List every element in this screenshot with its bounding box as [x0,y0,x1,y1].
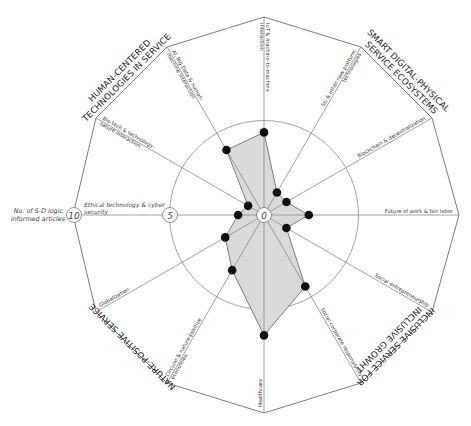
data-point-marker [301,282,310,291]
theme-label-line: NATURE-POSITIVE SERVICE [87,302,177,392]
data-series [221,128,313,340]
theme-label-line: HUMAN-CENTERED [86,37,152,103]
spoke-label-4: Social entrepreneurship [373,272,431,309]
theme-label-line: TECHNOLOGIES IN SERVICE [80,31,173,124]
theme-label-line: SERVICE ECOSYSTEMS [363,39,440,116]
tick-label-0: 0 [261,211,267,221]
spoke-label-line: Bio-tech & technology- [101,115,156,151]
tick-label-10: 10 [68,211,80,221]
tick-label-5: 5 [167,211,173,221]
spoke-label-line: Social entrepreneurship [373,272,431,309]
theme-label-line: INCLUSIVE GROWHT [353,305,423,375]
axis-title: No. of S-D logic informed articles [11,207,66,223]
data-point-marker [221,233,230,242]
data-point-marker [260,331,269,340]
spoke-label-8: Globalization [98,286,130,308]
spoke-label-line: Healthcare [257,379,263,407]
axis-title-line-1: No. of S-D logic [14,207,64,215]
spoke-label-0: IoT & machine-to-machineinteraction [259,23,271,92]
data-point-marker [234,211,243,220]
theme-label-2: NATURE-POSITIVE SERVICE [87,302,177,392]
spoke-label-line: Circular & nature-positive [164,317,203,378]
spoke-label-3: Future of work & fair labor [385,208,454,214]
spoke-label-1: 5G & other new platformtechnologies [320,48,364,111]
radar-chart: IoT & machine-to-machineinteraction5G & … [0,0,471,426]
axis-title-line-2: informed articles [11,215,66,223]
theme-label-0: SMART DIGITAL-PHYSICALSERVICE ECOSYSTEMS [358,27,452,121]
spoke-label-line: Future of work & fair labor [385,208,454,214]
spoke-label-line: Globalization [98,286,130,308]
spoke-label-line: Blockchain & decentralization [356,115,426,159]
spoke-label-2: Blockchain & decentralization [356,115,426,159]
data-point-marker [222,146,231,155]
spoke-label-line: security [84,208,108,216]
data-point-marker [305,211,314,220]
data-point-marker [228,266,237,275]
theme-label-1: INCLUSIVE SERVICE FORINCLUSIVE GROWHT [348,299,437,388]
data-point-marker [260,128,269,137]
spoke-label-10: Bio-tech & technology-nature interaction [99,115,157,155]
theme-label-3: HUMAN-CENTEREDTECHNOLOGIES IN SERVICE [73,24,173,124]
spoke-label-line: 5G & other new platform [320,49,358,108]
data-point-marker [282,198,291,207]
spoke-label-9: Ethical technology & cybersecurity [84,201,165,216]
theme-label-line: SMART DIGITAL-PHYSICAL [365,27,452,114]
spoke-label-line: AI, Big Data & human- [170,49,205,103]
spoke-label-11: AI, Big Data & human-machine interaction [166,49,205,105]
spoke-label-6: Healthcare [257,379,263,407]
data-point-marker [282,224,291,233]
theme-label-line: INCLUSIVE SERVICE FOR [355,306,437,388]
data-point-marker [244,202,253,211]
spoke-label-line: interaction [259,23,265,51]
data-point-marker [273,188,282,197]
spoke-label-7: Circular & nature-positiveeconomies [164,317,208,381]
